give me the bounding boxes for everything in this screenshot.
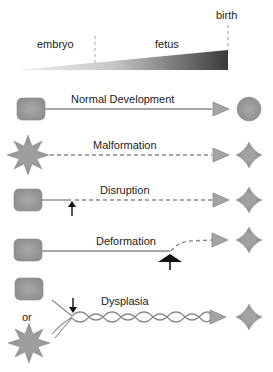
stage-label-embryo: embryo: [37, 38, 74, 50]
rounded-square-icon: [14, 189, 42, 211]
arrowhead-icon: [210, 310, 226, 324]
large-up-arrow-icon: [158, 254, 182, 270]
diamond-outcome-icon: [236, 187, 262, 213]
rounded-square-icon: [14, 239, 42, 261]
timeline-wedge: [18, 50, 228, 70]
row-label-dysplasia: Dysplasia: [101, 295, 149, 307]
row-label-disruption: Disruption: [100, 184, 150, 196]
rounded-square-icon: [17, 98, 45, 120]
arrowhead-icon: [213, 193, 229, 207]
arrowhead-icon: [212, 233, 228, 247]
row-deformation: [14, 227, 262, 270]
stage-label-birth: birth: [216, 9, 237, 21]
circle-outcome-icon: [237, 97, 261, 121]
star-icon: [7, 135, 49, 175]
row-label-malformation: Malformation: [93, 139, 157, 151]
or-label: or: [22, 311, 32, 323]
up-arrow-icon: [68, 201, 76, 216]
rounded-square-icon: [15, 278, 43, 300]
row-label-normal-development: Normal Development: [71, 93, 174, 105]
row-label-deformation: Deformation: [96, 235, 156, 247]
diamond-outcome-icon: [236, 227, 262, 253]
arrowhead-icon: [213, 102, 229, 116]
diamond-outcome-icon: [236, 142, 262, 168]
star-icon: [8, 323, 50, 363]
down-arrow-icon: [69, 298, 77, 313]
arrowhead-icon: [213, 148, 229, 162]
stage-label-fetus: fetus: [155, 38, 179, 50]
row-dysplasia: [8, 278, 262, 363]
diamond-outcome-icon: [236, 304, 262, 330]
